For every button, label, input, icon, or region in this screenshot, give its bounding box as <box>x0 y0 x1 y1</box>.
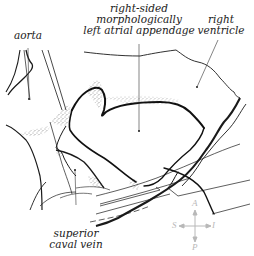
lower-vessel-lines <box>90 144 250 222</box>
orientation-compass <box>179 210 211 242</box>
label-appendage: right-sided morphologically left atrial … <box>79 3 199 36</box>
aorta-outline <box>6 50 66 110</box>
label-right-ventricle: right ventricle <box>196 14 246 36</box>
appendage-outline <box>69 88 204 186</box>
label-aorta: aorta <box>14 30 42 41</box>
svc-label-line-2: caval vein <box>46 239 106 250</box>
compass-superior: S <box>172 220 177 230</box>
compass-inferior: I <box>212 220 215 230</box>
compass-posterior: P <box>192 242 198 252</box>
appendage-label-line-3: left atrial appendage <box>79 25 199 36</box>
stippled-shading <box>20 80 180 190</box>
aorta-label: aorta <box>14 29 42 41</box>
right-ventricle-outline <box>84 50 246 226</box>
ventricle-label-line-2: ventricle <box>196 25 246 36</box>
caval-vein-outline <box>6 122 110 210</box>
compass-anterior: A <box>192 198 198 208</box>
appendage-pointer-dot <box>138 130 140 132</box>
svc-pointer-dot <box>74 169 76 171</box>
label-superior-caval-vein: superior caval vein <box>46 228 106 250</box>
